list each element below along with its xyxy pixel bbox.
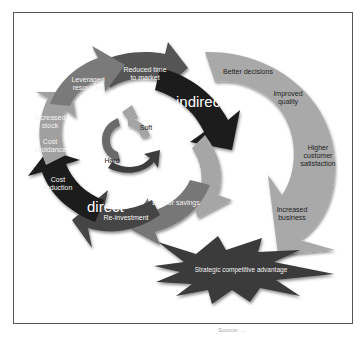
label-strategic-competitive-advantage: Strategic competitive advantage [186,266,296,274]
label-direct: direct [87,199,124,215]
label-cost-reduction: Cost reduction [38,176,78,192]
label-higher-customer-satisfaction: Higher customer satisfaction [296,144,340,168]
label-indirect: indirect [176,94,224,110]
label-soft: Soft [136,124,156,132]
label-labour-savings: Labour savings [148,199,204,207]
label-leveraged-resources: Leveraged resources [66,76,110,92]
cycle-diagram [0,0,363,338]
label-cost-avoidance: Cost avoidance [30,138,70,154]
label-improved-quality: Improved quality [268,90,308,106]
label-increased-business: Increased business [270,206,314,222]
label-re-investment: Re-investment [100,214,152,222]
label-reduced-time-to-market: Reduced time to market [120,66,170,82]
label-better-decisions: Better decisions [218,68,278,76]
label-hard: Hard [102,157,122,165]
label-increased-stock: Increased stock [30,114,70,130]
figure-caption: Source: ... [218,327,245,333]
